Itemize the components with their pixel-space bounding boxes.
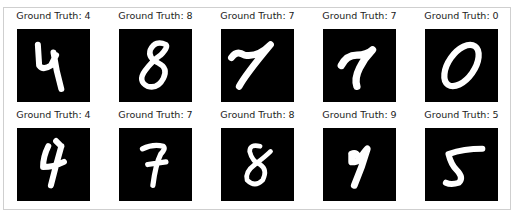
digit-image-9 [323,128,396,201]
digit-image-7 [323,29,396,102]
sample-title: Ground Truth: 7 [105,109,206,120]
sample-title: Ground Truth: 8 [105,10,206,21]
digit-image-7 [221,29,294,102]
sample-title: Ground Truth: 5 [411,109,512,120]
digit-image-4 [17,29,90,102]
digit-image-4 [17,128,90,201]
digit-image-5 [425,128,498,201]
sample-title: Ground Truth: 8 [207,109,308,120]
sample-title: Ground Truth: 0 [411,10,512,21]
sample-title: Ground Truth: 7 [309,10,410,21]
sample-title: Ground Truth: 4 [3,10,104,21]
sample-title: Ground Truth: 4 [3,109,104,120]
sample-title: Ground Truth: 7 [207,10,308,21]
digit-image-0 [425,29,498,102]
digit-image-7 [119,128,192,201]
digit-image-8 [119,29,192,102]
digit-image-8 [221,128,294,201]
sample-title: Ground Truth: 9 [309,109,410,120]
